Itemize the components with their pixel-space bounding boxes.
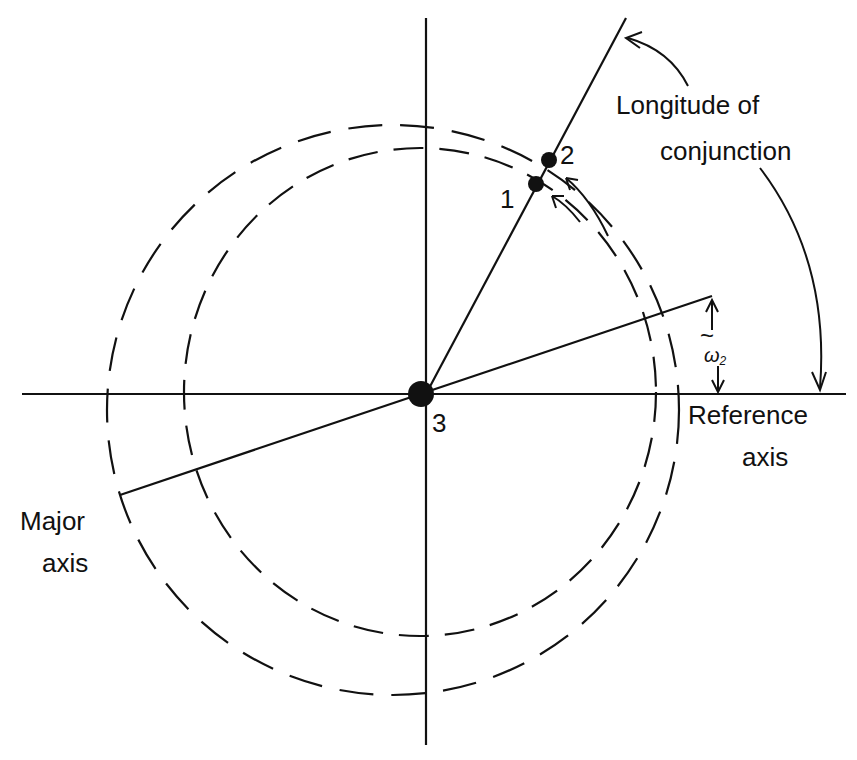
conjunction-line (426, 18, 626, 394)
major-label-line1: Major (20, 506, 85, 536)
labels: 1 2 3 Longitude of conjunction Reference… (20, 90, 808, 578)
omega-symbol: ω2 (704, 344, 727, 368)
three-body-orbit-diagram: 1 2 3 Longitude of conjunction Reference… (0, 0, 857, 760)
reference-label-line1: Reference (688, 400, 808, 430)
body-1-label: 1 (500, 184, 514, 214)
body-2-label: 2 (560, 140, 574, 170)
body-3-label: 3 (432, 408, 446, 438)
major-label-line2: axis (42, 548, 88, 578)
bodies (408, 152, 557, 407)
longitude-label-line1: Longitude of (616, 90, 760, 120)
longitude-label-line2: conjunction (660, 136, 792, 166)
arrows (552, 32, 826, 392)
body-1 (528, 176, 544, 192)
longitude-arc-arrow (760, 168, 821, 388)
body-2 (541, 152, 557, 168)
body-3 (408, 381, 434, 407)
reference-label-line2: axis (742, 442, 788, 472)
longitude-arrowhead-bottom (812, 372, 826, 390)
omega-arrow-bottom (712, 366, 724, 392)
